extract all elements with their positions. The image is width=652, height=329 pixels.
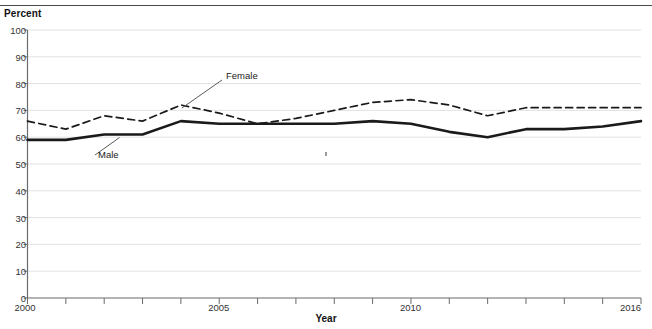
plot-area [0, 0, 652, 329]
y-tick-40: 40 [0, 185, 26, 196]
y-tick-80: 80 [0, 78, 26, 89]
chart-svg [0, 0, 652, 329]
y-tick-10: 10 [0, 266, 26, 277]
scan-artifact-speck [325, 152, 327, 156]
x-tick-2000: 2000 [15, 302, 36, 313]
y-tick-60: 60 [0, 132, 26, 143]
y-tick-70: 70 [0, 105, 26, 116]
y-tick-30: 30 [0, 212, 26, 223]
x-tick-2016: 2016 [620, 302, 641, 313]
annotation-male: Male [98, 149, 119, 160]
y-tick-100: 100 [0, 25, 26, 36]
y-tick-20: 20 [0, 239, 26, 250]
y-tick-90: 90 [0, 51, 26, 62]
chart-figure: Percent 0102030405060708090100 200020052… [0, 0, 652, 329]
x-axis-title: Year [0, 313, 652, 324]
x-tick-2010: 2010 [400, 302, 421, 313]
annotation-female: Female [226, 70, 258, 81]
y-tick-50: 50 [0, 159, 26, 170]
x-tick-2005: 2005 [208, 302, 229, 313]
